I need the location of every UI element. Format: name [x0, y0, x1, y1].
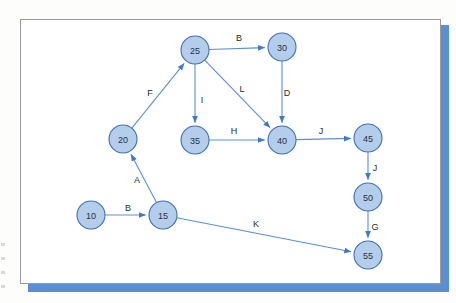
graph-node-40[interactable]: 40 — [268, 126, 296, 154]
node-label-25: 25 — [190, 46, 200, 56]
edge-label-20-25: F — [147, 88, 153, 98]
network-graph: BAFBILDHJJGK 10152025303540455055 — [0, 0, 456, 303]
edge-label-10-15: B — [125, 203, 131, 213]
node-label-20: 20 — [118, 135, 128, 145]
diagram-stage: BAFBILDHJJGK 10152025303540455055 — [0, 0, 456, 303]
graph-edge-25-30 — [209, 48, 265, 50]
node-label-35: 35 — [190, 136, 200, 146]
graph-edge-40-45 — [296, 138, 351, 139]
node-label-45: 45 — [363, 134, 373, 144]
graph-node-30[interactable]: 30 — [268, 33, 296, 61]
edge-label-30-40: D — [284, 88, 291, 98]
edge-label-25-35: I — [201, 95, 204, 105]
graph-edge-15-55 — [177, 218, 351, 252]
graph-edge-25-40 — [205, 60, 270, 128]
edge-label-25-40: L — [239, 84, 244, 94]
edge-label-45-50: J — [373, 163, 378, 173]
graph-node-10[interactable]: 10 — [77, 201, 105, 229]
node-label-30: 30 — [277, 43, 287, 53]
node-label-40: 40 — [277, 136, 287, 146]
edges-layer — [105, 48, 368, 252]
edge-label-15-55: K — [253, 219, 259, 229]
graph-node-55[interactable]: 55 — [354, 241, 382, 269]
nodes-layer: 10152025303540455055 — [77, 33, 382, 269]
node-label-15: 15 — [158, 211, 168, 221]
node-label-50: 50 — [363, 193, 373, 203]
graph-node-50[interactable]: 50 — [354, 183, 382, 211]
graph-edge-20-25 — [132, 63, 184, 128]
graph-node-35[interactable]: 35 — [181, 126, 209, 154]
node-label-55: 55 — [363, 251, 373, 261]
edge-label-35-40: H — [231, 126, 238, 136]
graph-node-45[interactable]: 45 — [354, 124, 382, 152]
edge-label-50-55: G — [371, 222, 378, 232]
edge-label-40-45: J — [319, 126, 324, 136]
node-label-10: 10 — [86, 211, 96, 221]
graph-node-15[interactable]: 15 — [149, 201, 177, 229]
graph-node-20[interactable]: 20 — [109, 125, 137, 153]
graph-node-25[interactable]: 25 — [181, 36, 209, 64]
edge-label-15-20: A — [134, 175, 140, 185]
edge-label-25-30: B — [236, 33, 242, 43]
